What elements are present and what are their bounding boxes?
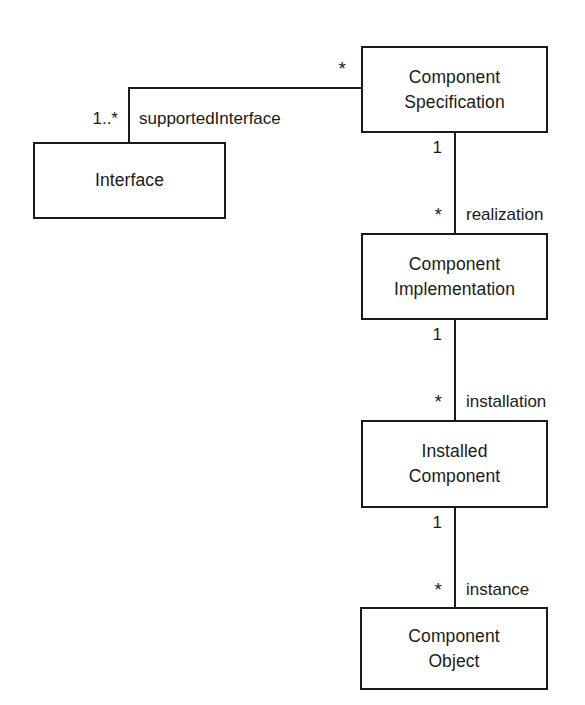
multiplicity-realization-target: * xyxy=(404,205,442,224)
class-name-line-1: Interface xyxy=(95,168,164,193)
multiplicity-installation-source: 1 xyxy=(404,325,442,344)
class-box-interface[interactable]: Interface xyxy=(33,142,226,219)
association-line-supported-interface-horizontal xyxy=(128,87,362,89)
class-name-line-1: Component xyxy=(409,252,500,277)
class-box-installed-component[interactable]: Installed Component xyxy=(361,420,548,508)
class-name-line-1: Component xyxy=(409,65,500,90)
multiplicity-instance-source: 1 xyxy=(404,513,442,532)
association-label-supported-interface: supportedInterface xyxy=(139,109,281,128)
class-name-line-1: Installed xyxy=(421,439,487,464)
association-line-instance xyxy=(454,506,456,609)
association-label-instance: instance xyxy=(466,580,529,599)
association-line-supported-interface-vertical xyxy=(128,87,130,143)
class-box-component-object[interactable]: Component Object xyxy=(360,607,548,690)
multiplicity-supported-interface-source: * xyxy=(310,59,346,78)
class-name-line-2: Component xyxy=(409,464,500,489)
class-name-line-2: Object xyxy=(428,649,479,674)
multiplicity-installation-target: * xyxy=(404,392,442,411)
association-line-realization xyxy=(454,131,456,235)
association-label-installation: installation xyxy=(466,392,546,411)
uml-class-diagram-canvas: Component Specification Interface Compon… xyxy=(0,0,585,705)
association-line-installation xyxy=(454,318,456,422)
class-box-component-specification[interactable]: Component Specification xyxy=(361,46,548,133)
class-name-line-1: Component xyxy=(408,624,499,649)
multiplicity-realization-source: 1 xyxy=(404,138,442,157)
class-name-line-2: Specification xyxy=(404,90,505,115)
multiplicity-instance-target: * xyxy=(404,580,442,599)
class-box-component-implementation[interactable]: Component Implementation xyxy=(361,233,548,320)
class-name-line-2: Implementation xyxy=(394,277,515,302)
association-label-realization: realization xyxy=(466,205,544,224)
multiplicity-supported-interface-target: 1..* xyxy=(42,109,118,128)
